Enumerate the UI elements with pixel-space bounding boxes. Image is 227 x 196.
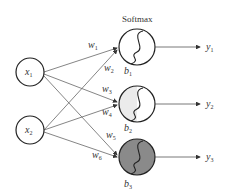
weight-label-w3: w3: [102, 83, 112, 95]
weight-label-w4: w4: [102, 106, 112, 118]
softmax-network-diagram: Softmax w1 w2 w3 w4 w5 w6 x1 x2 b1 b2: [0, 0, 227, 196]
input-node-x2: x2: [16, 116, 44, 144]
weight-label-w6: w6: [92, 149, 102, 161]
output-label-y2: y2: [205, 98, 213, 110]
output-arrows: [155, 47, 200, 157]
bias-label-b2: b2: [124, 122, 132, 134]
bias-label-b1: b1: [124, 65, 132, 77]
weight-label-w5: w5: [106, 129, 116, 141]
softmax-neuron-2: b2: [119, 86, 155, 134]
output-label-y3: y3: [205, 151, 213, 163]
input-node-x1: x1: [16, 58, 44, 86]
weight-label-w2: w2: [104, 62, 114, 74]
bias-label-b3: b3: [124, 178, 132, 190]
weight-label-w1: w1: [88, 39, 98, 51]
softmax-title: Softmax: [122, 14, 153, 24]
softmax-neuron-3: b3: [119, 139, 155, 190]
output-label-y1: y1: [205, 41, 213, 53]
softmax-neuron-1: b1: [119, 29, 155, 77]
